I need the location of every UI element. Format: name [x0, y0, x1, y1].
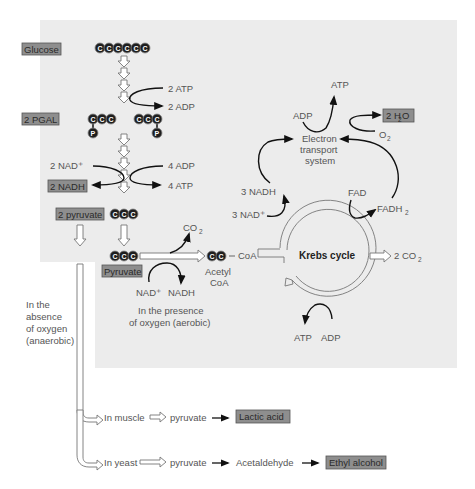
svg-text:pyruvate: pyruvate [170, 457, 206, 468]
svg-text:NADH: NADH [168, 287, 195, 298]
svg-text:CoA: CoA [210, 277, 229, 288]
svg-text:2: 2 [387, 135, 391, 142]
nadh-label: 2 NADH [48, 180, 87, 192]
svg-text:C: C [91, 116, 96, 123]
svg-text:C: C [100, 116, 105, 123]
svg-text:2 NADH: 2 NADH [50, 181, 85, 192]
svg-text:2: 2 [405, 209, 409, 216]
svg-text:C: C [146, 116, 151, 123]
respiration-diagram: Glucose C C C C C C 2 ATP 2 ADP 2 PGAL C… [0, 0, 475, 489]
svg-text:C: C [125, 45, 130, 52]
two-pyruvate-label: 2 pyruvate [56, 208, 104, 220]
svg-text:pyruvate: pyruvate [170, 412, 206, 423]
svg-text:2: 2 [199, 228, 203, 235]
pyruvate-carbon-chain-aerobic: C C C [110, 251, 138, 261]
svg-text:3 NADH: 3 NADH [241, 186, 276, 197]
svg-text:3 NAD⁺: 3 NAD⁺ [232, 209, 265, 220]
water-label: 2 H 2 O [383, 109, 414, 123]
svg-text:Ethyl alcohol: Ethyl alcohol [329, 457, 383, 468]
svg-text:2 ATP: 2 ATP [168, 83, 193, 94]
svg-text:C: C [210, 253, 215, 260]
electron-transport-system: Electron transport system [300, 133, 338, 166]
svg-text:O: O [379, 129, 386, 140]
svg-text:C: C [107, 45, 112, 52]
svg-text:C: C [143, 45, 148, 52]
svg-text:(anaerobic): (anaerobic) [26, 335, 74, 346]
svg-text:C: C [219, 253, 224, 260]
anaerobic-caption: In the absence of oxygen (anaerobic) [26, 299, 74, 346]
svg-text:Glucose: Glucose [24, 44, 59, 55]
svg-text:FADH: FADH [377, 203, 402, 214]
muscle-fermentation: In muscle pyruvate Lactic acid [104, 410, 290, 423]
svg-text:P: P [155, 130, 160, 137]
svg-text:FAD: FAD [348, 187, 367, 198]
svg-text:In the presence: In the presence [138, 305, 204, 316]
svg-text:2 ADP: 2 ADP [168, 101, 195, 112]
svg-text:ATP: ATP [331, 79, 349, 90]
pyruvate-label: Pyruvate [102, 265, 142, 277]
svg-text:C: C [109, 116, 114, 123]
svg-text:transport: transport [300, 144, 338, 155]
svg-text:2: 2 [418, 256, 422, 263]
svg-text:of oxygen (aerobic): of oxygen (aerobic) [129, 317, 210, 328]
svg-text:C: C [116, 45, 121, 52]
svg-text:4 ATP: 4 ATP [168, 180, 193, 191]
svg-text:4 ADP: 4 ADP [168, 160, 195, 171]
svg-text:C: C [155, 116, 160, 123]
svg-text:C: C [134, 45, 139, 52]
svg-text:C: C [137, 116, 142, 123]
svg-text:system: system [305, 155, 335, 166]
svg-text:Pyruvate: Pyruvate [104, 266, 142, 277]
aerobic-caption: In the presence of oxygen (aerobic) [129, 305, 210, 328]
glucose-label: Glucose [22, 43, 61, 55]
svg-text:Krebs cycle: Krebs cycle [299, 250, 356, 261]
svg-text:2 pyruvate: 2 pyruvate [58, 209, 102, 220]
svg-text:2 CO: 2 CO [394, 250, 416, 261]
svg-text:C: C [113, 211, 118, 218]
svg-text:CO: CO [183, 222, 197, 233]
svg-text:Electron: Electron [302, 133, 337, 144]
svg-text:C: C [98, 45, 103, 52]
svg-text:2 PGAL: 2 PGAL [24, 114, 57, 125]
svg-text:C: C [122, 253, 127, 260]
svg-text:C: C [113, 253, 118, 260]
svg-text:P: P [91, 130, 96, 137]
lactic-acid-label: Lactic acid [236, 410, 290, 423]
ethyl-alcohol-label: Ethyl alcohol [326, 456, 386, 469]
pyruvate-carbon-chain: C C C [110, 209, 138, 219]
svg-text:CoA: CoA [238, 250, 257, 261]
svg-text:2 NAD⁺: 2 NAD⁺ [50, 160, 83, 171]
svg-text:absence: absence [26, 311, 62, 322]
pgal-label: 2 PGAL [22, 113, 59, 125]
svg-text:Lactic acid: Lactic acid [239, 411, 284, 422]
svg-text:C: C [122, 211, 127, 218]
svg-text:NAD⁺: NAD⁺ [136, 287, 161, 298]
svg-text:Acetyl: Acetyl [205, 266, 231, 277]
svg-text:ADP: ADP [321, 332, 341, 343]
svg-text:C: C [131, 211, 136, 218]
svg-text:Acetaldehyde: Acetaldehyde [236, 457, 294, 468]
svg-text:of oxygen: of oxygen [26, 323, 67, 334]
svg-text:In yeast: In yeast [104, 457, 138, 468]
yeast-fermentation: In yeast pyruvate Acetaldehyde Ethyl alc… [104, 456, 386, 469]
svg-text:In muscle: In muscle [104, 412, 145, 423]
svg-text:In the: In the [26, 299, 50, 310]
svg-text:O: O [402, 110, 409, 121]
svg-text:ADP: ADP [293, 110, 313, 121]
svg-text:C: C [131, 253, 136, 260]
svg-text:ATP: ATP [294, 332, 312, 343]
